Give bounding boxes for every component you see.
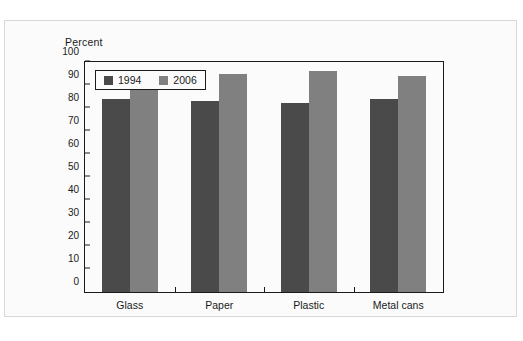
- y-axis-tick-mark: [85, 153, 90, 154]
- chart-bar: [130, 76, 158, 292]
- y-axis-tick-mark: [85, 130, 90, 131]
- y-axis-tick-mark: [85, 84, 90, 85]
- legend-item: 2006: [159, 74, 196, 86]
- y-axis-tick-label: 80: [68, 92, 79, 103]
- chart-bar: [102, 99, 130, 292]
- plot-inner: 0102030405060708090100GlassPaperPlasticM…: [85, 62, 443, 292]
- y-axis-tick-mark: [85, 61, 90, 62]
- x-axis-category-label: Glass: [116, 299, 143, 311]
- y-axis-tick-label: 70: [68, 115, 79, 126]
- chart-bar: [398, 76, 426, 292]
- legend-item: 1994: [104, 74, 141, 86]
- legend-label: 2006: [173, 74, 196, 86]
- x-axis-category-label: Metal cans: [373, 299, 424, 311]
- plot-area: 0102030405060708090100GlassPaperPlasticM…: [84, 61, 444, 293]
- y-axis-tick-mark: [85, 199, 90, 200]
- legend-swatch-icon: [159, 76, 168, 85]
- y-axis-tick-label: 30: [68, 207, 79, 218]
- y-axis-tick-label: 50: [68, 161, 79, 172]
- x-axis-category-label: Paper: [205, 299, 233, 311]
- y-axis-tick-mark: [85, 176, 90, 177]
- y-axis-tick-label: 90: [68, 69, 79, 80]
- legend-label: 1994: [118, 74, 141, 86]
- y-axis-tick-label: 20: [68, 230, 79, 241]
- chart-bar: [309, 71, 337, 292]
- legend-swatch-icon: [104, 76, 113, 85]
- x-axis-tick-mark: [264, 287, 265, 292]
- y-axis-tick-label: 60: [68, 138, 79, 149]
- y-axis-tick-label: 40: [68, 184, 79, 195]
- x-axis-category-label: Plastic: [293, 299, 324, 311]
- chart-legend: 19942006: [95, 70, 206, 90]
- y-axis-tick-label: 100: [62, 46, 79, 57]
- y-axis-tick-label: 10: [68, 253, 79, 264]
- chart-bar: [370, 99, 398, 292]
- chart-bar: [281, 103, 309, 292]
- y-axis-tick-mark: [85, 107, 90, 108]
- x-axis-tick-mark: [175, 287, 176, 292]
- chart-bar: [219, 74, 247, 293]
- figure-panel: Percent 0102030405060708090100GlassPaper…: [4, 20, 517, 317]
- y-axis-tick-mark: [85, 245, 90, 246]
- y-axis-tick-mark: [85, 222, 90, 223]
- chart-bar: [191, 101, 219, 292]
- x-axis-tick-mark: [354, 287, 355, 292]
- y-axis-tick-label: 0: [73, 276, 79, 287]
- y-axis-tick-mark: [85, 268, 90, 269]
